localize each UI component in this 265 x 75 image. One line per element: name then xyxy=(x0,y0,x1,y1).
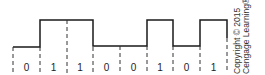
signal-waveform xyxy=(13,20,227,47)
waveform-canvas: 0 1 1 0 0 1 0 1 Copyright © 2015 Cengage… xyxy=(0,0,265,75)
bit-label: 0 xyxy=(24,62,30,73)
signal-diagram: 0 1 1 0 0 1 0 1 Copyright © 2015 Cengage… xyxy=(0,0,265,75)
bit-label: 0 xyxy=(104,62,110,73)
bit-label: 0 xyxy=(184,62,190,73)
bit-label: 1 xyxy=(51,62,57,73)
bit-label: 1 xyxy=(157,62,163,73)
bit-label: 0 xyxy=(131,62,137,73)
bit-label: 1 xyxy=(77,62,83,73)
bit-label: 1 xyxy=(211,62,217,73)
copyright-line2: Cengage Learning® xyxy=(241,0,251,74)
